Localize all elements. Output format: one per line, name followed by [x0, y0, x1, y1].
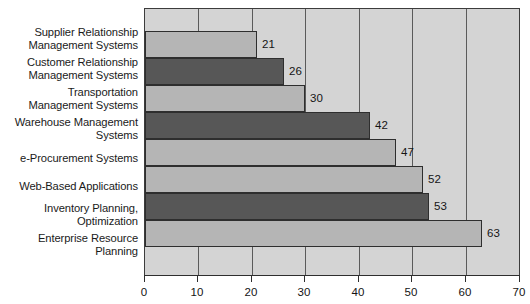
x-axis-tick-label: 60 [445, 285, 485, 299]
bar-row: 21 [145, 31, 519, 58]
bar-row: 42 [145, 112, 519, 139]
bar-chart: Supplier Relationship Management Systems… [0, 0, 530, 304]
plot-area: 21 26 30 42 47 52 53 63 [144, 8, 520, 276]
category-label: e-Procurement Systems [0, 152, 138, 165]
category-label-line: Supplier Relationship [0, 26, 138, 39]
bar[interactable] [145, 193, 429, 220]
bar[interactable] [145, 58, 284, 85]
x-axis-tick [144, 276, 145, 282]
x-axis-tick [519, 276, 520, 282]
category-label-line: e-Procurement Systems [0, 152, 138, 165]
bar[interactable] [145, 139, 396, 166]
category-label-line: Management Systems [0, 99, 138, 112]
bar-value-label: 21 [262, 37, 275, 51]
x-axis-tick-label: 40 [338, 285, 378, 299]
bar[interactable] [145, 85, 305, 112]
category-label: Enterprise Resource Planning [0, 232, 138, 257]
category-label-line: Planning [0, 245, 138, 258]
x-axis-tick [197, 276, 198, 282]
bar-row: 47 [145, 139, 519, 166]
bar[interactable] [145, 112, 370, 139]
category-label-line: Systems [0, 129, 138, 142]
category-label-line: Management Systems [0, 39, 138, 52]
x-axis-tick-label: 0 [124, 285, 164, 299]
x-axis-tick-label: 70 [499, 285, 530, 299]
x-axis-tick-label: 30 [284, 285, 324, 299]
category-label: Web-Based Applications [0, 180, 138, 193]
bar-value-label: 53 [434, 199, 447, 213]
bar-value-label: 42 [375, 118, 388, 132]
x-axis-tick [251, 276, 252, 282]
x-axis-tick [358, 276, 359, 282]
x-axis-tick-label: 20 [231, 285, 271, 299]
bar-row: 30 [145, 85, 519, 112]
bar-row: 53 [145, 193, 519, 220]
category-label-line: Enterprise Resource [0, 232, 138, 245]
category-label-line: Transportation [0, 86, 138, 99]
bar[interactable] [145, 31, 257, 58]
bar-row: 63 [145, 220, 519, 247]
category-label-line: Web-Based Applications [0, 180, 138, 193]
category-label-line: Inventory Planning, [0, 202, 138, 215]
category-label: Transportation Management Systems [0, 86, 138, 111]
category-label: Supplier Relationship Management Systems [0, 26, 138, 51]
x-axis-tick-label: 50 [391, 285, 431, 299]
category-label-line: Warehouse Management [0, 116, 138, 129]
x-axis-tick-label: 10 [177, 285, 217, 299]
bar[interactable] [145, 166, 423, 193]
x-axis-tick [411, 276, 412, 282]
bar[interactable] [145, 220, 482, 247]
bar-row: 26 [145, 58, 519, 85]
bar-value-label: 47 [401, 145, 414, 159]
category-label-line: Optimization [0, 215, 138, 228]
x-axis-line [144, 275, 520, 276]
bar-value-label: 52 [428, 172, 441, 186]
x-axis-tick [465, 276, 466, 282]
category-axis-labels: Supplier Relationship Management Systems… [0, 8, 142, 256]
bar-value-label: 30 [310, 91, 323, 105]
category-label-line: Management Systems [0, 69, 138, 82]
category-label: Customer Relationship Management Systems [0, 56, 138, 81]
category-label: Warehouse Management Systems [0, 116, 138, 141]
bar-value-label: 63 [487, 226, 500, 240]
x-axis-tick [304, 276, 305, 282]
bar-row: 52 [145, 166, 519, 193]
category-label: Inventory Planning, Optimization [0, 202, 138, 227]
category-label-line: Customer Relationship [0, 56, 138, 69]
bar-value-label: 26 [289, 64, 302, 78]
